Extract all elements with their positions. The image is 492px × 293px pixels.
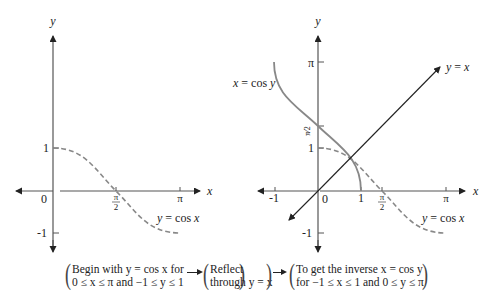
right-y-tick-pi: π xyxy=(308,56,314,70)
right-y-tick-pi-half: π⁄2 xyxy=(303,126,312,135)
right-cos-curve-label: y = cos x xyxy=(421,211,465,225)
right-y-tick-1: 1 xyxy=(308,141,314,155)
step-inverse-line1: To get the inverse x = cos y xyxy=(296,263,424,276)
step-reflect: ( Reflect through y = x xyxy=(204,262,274,292)
paren-right: ) xyxy=(266,259,272,289)
paren-left: ( xyxy=(203,259,209,289)
arrow-right-icon xyxy=(273,272,283,273)
step-reflect-line1: Reflect xyxy=(210,263,272,276)
right-x-tick-pi: π xyxy=(443,192,449,204)
right-x-tick-pi-half-den: 2 xyxy=(380,202,385,212)
left-y-tick-1: 1 xyxy=(43,141,49,155)
step-inverse-line2: for −1 ≤ x ≤ 1 and 0 ≤ y ≤ π xyxy=(296,276,424,289)
right-y-tick-neg1: -1 xyxy=(302,226,312,240)
right-x-tick-pi-half-num: π xyxy=(380,192,385,202)
right-y-axis-label: y xyxy=(314,14,321,28)
right-x-tick-neg1: -1 xyxy=(269,191,279,205)
paren-right: ) xyxy=(422,259,428,289)
right-inverse-curve-label: x = cos y xyxy=(232,76,276,90)
right-origin-label: 0 xyxy=(322,192,328,206)
left-y-tick-neg1: -1 xyxy=(37,226,47,240)
step-inverse: ( To get the inverse x = cos y for −1 ≤ … xyxy=(290,262,425,292)
paren-left: ( xyxy=(289,259,295,289)
step-begin-line2: 0 ≤ x ≤ π and −1 ≤ y ≤ 1 xyxy=(72,276,184,289)
step-reflect-line2: through y = x xyxy=(210,276,272,289)
step-begin-line1: Begin with y = cos x for xyxy=(72,263,184,276)
right-identity-line xyxy=(318,67,440,191)
left-x-tick-pi: π xyxy=(177,192,183,204)
left-x-tick-pi-half-den: 2 xyxy=(114,202,119,212)
paren-left: ( xyxy=(65,259,71,289)
step-begin: ( Begin with y = cos x for 0 ≤ x ≤ π and… xyxy=(66,262,182,292)
right-x-axis-label: x xyxy=(472,184,479,198)
left-x-axis-label: x xyxy=(206,184,213,198)
left-curve-label: y = cos x xyxy=(156,211,200,225)
left-y-axis-label: y xyxy=(49,14,56,28)
diagram-canvas: y x 0 1 -1 π 2 π y = cos x y x 0 π π⁄2 1… xyxy=(0,0,492,293)
right-x-tick-1: 1 xyxy=(358,191,364,205)
left-x-tick-pi-half-num: π xyxy=(114,192,119,202)
left-origin-label: 0 xyxy=(41,192,47,206)
right-identity-line-lower xyxy=(289,191,318,220)
right-identity-line-label: y = x xyxy=(445,60,470,74)
arrow-right-icon xyxy=(187,272,199,273)
